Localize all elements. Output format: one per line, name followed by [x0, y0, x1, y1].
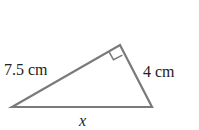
side-label-7-5cm: 7.5 cm: [4, 61, 48, 78]
side-label-x: x: [78, 112, 86, 129]
right-angle-marker: [109, 51, 123, 59]
side-label-4cm: 4 cm: [143, 63, 175, 80]
triangle-diagram: 7.5 cm 4 cm x: [0, 0, 199, 130]
